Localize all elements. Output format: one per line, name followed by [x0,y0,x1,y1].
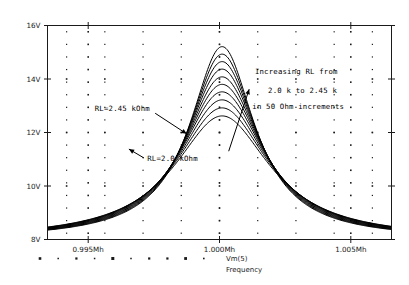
grid-dot [295,170,296,171]
grid-dot [257,220,258,221]
grid-dot [372,44,373,45]
response-curve [48,69,392,229]
legend-marker [111,257,114,260]
grid-dot [104,157,105,158]
grid-dot [295,44,296,45]
grid-dot [295,56,296,57]
grid-dot [104,195,105,196]
grid-dot [334,119,335,120]
legend-marker [94,258,96,260]
grid-dot [142,220,143,221]
grid-dot [104,207,105,208]
grid-dot [372,195,373,196]
grid-dot [181,56,182,57]
increasing-line-2: 2.0 k to 2.45 k [268,86,337,95]
grid-dot-major [142,132,144,134]
legend-trace-label[interactable]: Vm(5) [226,255,248,263]
grid-dot [66,69,67,70]
grid-dot [66,107,67,108]
grid-dot [295,144,296,145]
grid-dot [66,44,67,45]
grid-dot [181,220,182,221]
grid-dot [104,82,105,83]
grid-dot [372,144,373,145]
grid-dot-major [350,107,352,109]
grid-dot-major [257,185,259,187]
grid-dot [334,170,335,171]
response-curve [48,108,392,227]
grid-dot-major [219,195,221,197]
grid-dot [66,94,67,95]
grid-dot [181,170,182,171]
grid-dot [181,69,182,70]
grid-dot [142,82,143,83]
rl-max-label: RL=2.45 kOhm [95,104,151,113]
grid-dot-major [87,107,89,109]
grid-dot-major [372,132,374,134]
grid-dot [257,170,258,171]
grid-dot-major [295,185,297,187]
grid-dot [181,195,182,196]
grid-dot [372,182,373,183]
grid-dot-major [87,144,89,146]
grid-dot-major [87,232,89,234]
y-tick-label: 14V [26,75,40,84]
spice-plot-figure: 8V10V12V14V16V 0.995Mh1.000Mh1.005Mh RL=… [0,0,409,285]
grid-dot [372,94,373,95]
grid-dot [257,182,258,183]
y-axis-tick-labels: 8V10V12V14V16V [26,21,40,244]
grid-dot [142,233,143,234]
grid-dot-major [104,185,106,187]
y-tick-label: 12V [26,128,40,137]
grid-dot [66,119,67,120]
grid-dot [142,56,143,57]
grid-dot [372,31,373,32]
grid-dot [372,220,373,221]
grid-dot-major [219,157,221,159]
grid-dot [104,233,105,234]
grid-dot-major [350,119,352,121]
grid-dot [66,195,67,196]
grid-dot [372,207,373,208]
grid-dot-major [372,78,374,80]
grid-dot [142,182,143,183]
grid-dot-major [219,169,221,171]
legend-marker [203,258,205,260]
grid-dot-major [87,169,89,171]
grid-dot-major [350,31,352,33]
grid-dot-major [219,44,221,46]
grid-dot-major [350,169,352,171]
grid-dot [181,119,182,120]
grid-dot-major [219,144,221,146]
grid-dot-major [87,81,89,83]
legend-marker [57,258,59,260]
grid-dot [372,107,373,108]
increasing-line-3: in 50 Ohm increments [252,102,344,111]
grid-dot-major [87,119,89,121]
grid-dot [257,195,258,196]
grid-dot-major [87,69,89,71]
grid-dot-major [219,185,221,187]
grid-dot [142,207,143,208]
grid-dot-major [219,94,221,96]
grid-dot [334,56,335,57]
grid-dot [257,56,258,57]
grid-dot [295,182,296,183]
grid-dot [295,207,296,208]
grid-dot [181,107,182,108]
grid-dot-major [350,232,352,234]
grid-dot [257,94,258,95]
grid-dot [334,144,335,145]
grid-dot [142,44,143,45]
grid-dot-major [333,132,335,134]
grid-dot [66,157,67,158]
increasing-line-1: Increasing RL from [255,67,338,76]
grid-dot-major [219,81,221,83]
grid-dot [295,233,296,234]
rl-max-arrow-shaft [155,113,187,134]
grid-dot-major [219,31,221,33]
grid-dot [181,207,182,208]
grid-dot-major [87,207,89,209]
grid-dot-major [372,185,374,187]
response-curve [48,77,392,229]
